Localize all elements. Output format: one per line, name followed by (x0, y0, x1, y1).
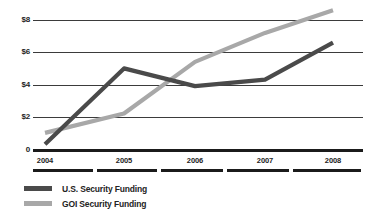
x-axis-label-2006: 2006 (187, 156, 203, 165)
plot-area (33, 0, 363, 152)
legend-item-goi-security-funding: GOI Security Funding (24, 196, 147, 211)
y-axis-tick-6: $6 (2, 48, 30, 56)
legend-item-us-security-funding: U.S. Security Funding (24, 181, 147, 196)
legend-label-goi: GOI Security Funding (62, 199, 146, 209)
security-funding-line-chart: $8 $6 $4 $2 0 2004 2005 2006 2007 2008 U (0, 0, 375, 220)
x-axis: 2004 2005 2006 2007 2008 (33, 152, 363, 174)
legend-label-us: U.S. Security Funding (62, 184, 147, 194)
x-axis-segment-2006 (161, 169, 223, 172)
x-axis-label-2005: 2005 (116, 156, 132, 165)
y-axis: $8 $6 $4 $2 0 (0, 0, 30, 152)
y-axis-tick-4: $4 (2, 81, 30, 89)
legend-swatch-us (24, 186, 52, 191)
x-axis-segment-2007 (227, 169, 289, 172)
y-axis-tick-0: 0 (2, 146, 30, 154)
y-axis-tick-8: $8 (2, 16, 30, 24)
x-axis-label-2008: 2008 (325, 156, 341, 165)
y-axis-tick-2: $2 (2, 113, 30, 121)
legend-swatch-goi (24, 201, 52, 206)
series-line-goi (45, 10, 333, 133)
series-lines (33, 0, 363, 152)
chart-legend: U.S. Security Funding GOI Security Fundi… (24, 181, 147, 211)
series-line-us (45, 43, 333, 145)
x-axis-label-2007: 2007 (257, 156, 273, 165)
x-axis-label-2004: 2004 (37, 156, 53, 165)
x-axis-segment-2004 (33, 169, 93, 172)
x-axis-segment-2008 (293, 169, 361, 172)
x-axis-segment-2005 (97, 169, 157, 172)
